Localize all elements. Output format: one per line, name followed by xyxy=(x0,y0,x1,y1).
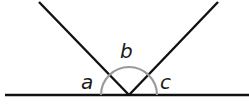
label-c: c xyxy=(160,70,171,94)
angle-diagram: a b c xyxy=(0,0,249,111)
label-b: b xyxy=(120,39,133,63)
angle-arc xyxy=(101,67,157,95)
label-a: a xyxy=(81,70,93,94)
right-ray xyxy=(129,2,218,95)
